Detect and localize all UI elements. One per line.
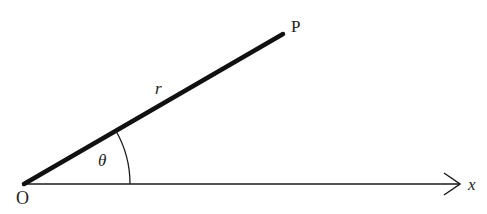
radius-line-op xyxy=(24,34,283,184)
diagram-graphic xyxy=(0,0,487,214)
origin-label: O xyxy=(16,189,29,207)
point-label: P xyxy=(291,18,300,35)
angle-label: θ xyxy=(98,152,106,169)
radius-label: r xyxy=(155,80,162,97)
x-axis-label: x xyxy=(468,176,476,193)
angle-arc xyxy=(116,131,130,184)
polar-diagram: O P r θ x xyxy=(0,0,487,214)
